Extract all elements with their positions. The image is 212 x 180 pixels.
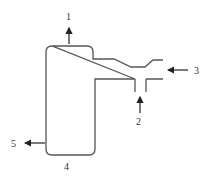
label-5: 5 bbox=[11, 138, 16, 149]
label-1: 1 bbox=[66, 11, 71, 22]
label-3: 3 bbox=[194, 65, 199, 76]
process-diagram: 1 3 2 5 4 bbox=[0, 0, 212, 180]
label-4: 4 bbox=[64, 161, 69, 172]
vessel bbox=[46, 46, 163, 155]
label-2: 2 bbox=[136, 116, 141, 127]
